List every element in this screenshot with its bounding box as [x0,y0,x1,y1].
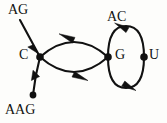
edge-c-to-g-bottom-arrowhead [72,72,88,81]
node-label-g: G [115,48,125,62]
edge-label-aag: AAG [5,103,35,117]
node-dot-u [140,53,148,61]
terminal-dot-aag [30,92,37,99]
edge-c-to-g-bottom [40,57,108,81]
diagram-canvas: C G U AG AAG AC [0,0,167,123]
node-dot-g [104,53,112,61]
edge-g-to-u-bottom [108,57,144,91]
node-label-u: U [149,48,159,62]
edge-g-to-c-top-arc [40,42,108,57]
edge-u-to-g-top [108,23,144,57]
edge-c-to-aag [30,57,40,98]
edge-label-ac: AC [107,10,126,24]
node-label-c: C [19,48,28,62]
edge-g-to-c-top [40,34,108,57]
edge-label-ag: AG [8,3,28,17]
edge-c-to-g-bottom-arc [40,57,108,72]
node-dot-c [36,53,44,61]
